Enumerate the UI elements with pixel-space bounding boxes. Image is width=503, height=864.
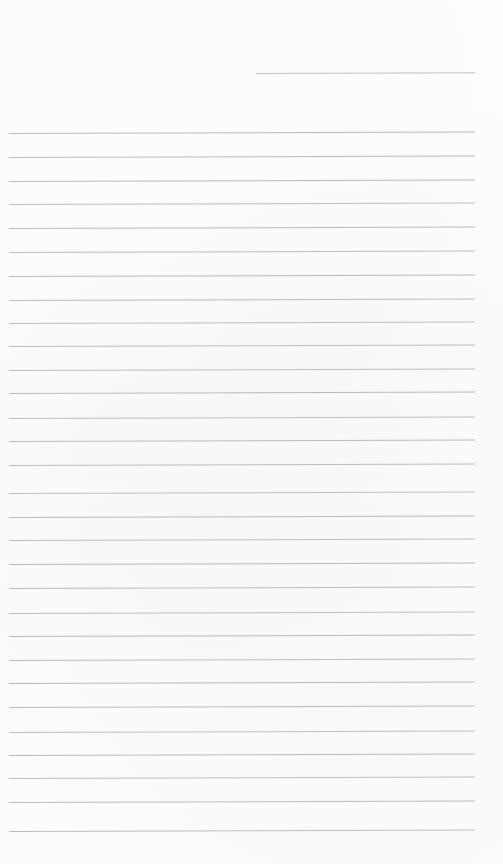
ruled-line bbox=[9, 227, 475, 229]
ruled-line bbox=[9, 156, 475, 158]
ruled-line bbox=[9, 706, 475, 708]
ruled-line bbox=[9, 754, 475, 756]
ruled-line bbox=[9, 587, 475, 589]
ruled-line bbox=[9, 251, 475, 253]
ruled-line bbox=[9, 635, 475, 637]
ruled-line bbox=[9, 132, 475, 134]
ruled-line bbox=[9, 777, 475, 779]
notebook-page: Blank lined notebook page bbox=[0, 0, 503, 864]
ruled-line bbox=[9, 322, 475, 324]
ruled-line bbox=[9, 369, 475, 371]
ruled-line bbox=[9, 659, 475, 661]
ruled-line bbox=[9, 830, 475, 832]
ruled-line bbox=[9, 345, 475, 347]
ruled-line bbox=[9, 612, 475, 614]
ruled-line bbox=[9, 516, 475, 518]
ruled-line bbox=[9, 801, 475, 803]
ruled-line bbox=[9, 417, 475, 419]
ruled-line bbox=[9, 492, 475, 494]
ruled-line bbox=[9, 275, 475, 277]
ruled-line bbox=[9, 682, 475, 684]
ruled-line bbox=[9, 203, 475, 205]
ruled-line bbox=[9, 731, 475, 733]
ruled-line bbox=[9, 392, 475, 394]
ruled-line bbox=[9, 539, 475, 541]
ruled-line bbox=[9, 180, 475, 182]
ruled-line bbox=[9, 440, 475, 442]
ruled-line bbox=[9, 563, 475, 565]
ruled-line-partial bbox=[256, 72, 475, 74]
paper-texture bbox=[0, 0, 503, 864]
ruled-line bbox=[9, 464, 475, 466]
page-title: Blank lined notebook page bbox=[0, 0, 1, 1]
ruled-line bbox=[9, 299, 475, 301]
